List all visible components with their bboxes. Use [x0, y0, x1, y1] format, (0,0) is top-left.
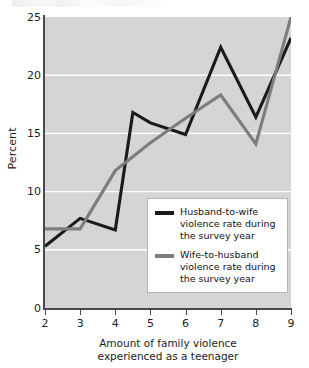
legend-label-line-1: Wife-to-husband — [180, 249, 276, 261]
line-chart-figure: 0510152025 Percent 23456789 Amount of fa… — [0, 0, 309, 368]
x-tick-label: 7 — [211, 318, 231, 330]
x-tick-mark — [45, 310, 46, 315]
x-tick-label: 5 — [140, 318, 160, 330]
legend-label-line-2: violence rate during — [180, 261, 276, 273]
x-axis-title: Amount of family violence experienced as… — [45, 337, 291, 363]
legend-label-line-3: the survey year — [180, 230, 276, 242]
y-axis-spine — [43, 15, 45, 310]
x-tick-mark — [291, 310, 292, 315]
x-tick-label: 2 — [35, 318, 55, 330]
x-tick-mark — [256, 310, 257, 315]
x-axis-title-line-1: Amount of family violence — [45, 337, 291, 350]
y-tick-label: 25 — [5, 12, 41, 23]
legend-label-husband-to-wife: Husband-to-wife violence rate during the… — [180, 206, 276, 242]
chart-legend: Husband-to-wife violence rate during the… — [147, 198, 288, 293]
x-axis-spine — [44, 308, 292, 310]
x-tick-label: 4 — [105, 318, 125, 330]
x-tick-label: 8 — [246, 318, 266, 330]
x-tick-label: 3 — [70, 318, 90, 330]
legend-label-line-1: Husband-to-wife — [180, 206, 276, 218]
y-tick-label: 20 — [5, 70, 41, 81]
legend-swatch-wife-to-husband — [155, 254, 174, 258]
legend-swatch-husband-to-wife — [155, 211, 174, 215]
legend-label-line-3: the survey year — [180, 273, 276, 285]
x-tick-mark — [186, 310, 187, 315]
x-tick-label: 9 — [281, 318, 301, 330]
y-axis-title: Percent — [6, 109, 19, 189]
x-tick-mark — [115, 310, 116, 315]
legend-entry-husband-to-wife: Husband-to-wife violence rate during the… — [155, 206, 281, 242]
legend-label-wife-to-husband: Wife-to-husband violence rate during the… — [180, 249, 276, 285]
x-axis-title-line-2: experienced as a teenager — [45, 350, 291, 363]
legend-label-line-2: violence rate during — [180, 218, 276, 230]
x-tick-mark — [150, 310, 151, 315]
legend-entry-wife-to-husband: Wife-to-husband violence rate during the… — [155, 249, 281, 285]
x-tick-mark — [221, 310, 222, 315]
y-tick-label: 0 — [5, 303, 41, 314]
x-tick-label: 6 — [176, 318, 196, 330]
y-tick-label: 5 — [5, 244, 41, 255]
x-tick-mark — [80, 310, 81, 315]
